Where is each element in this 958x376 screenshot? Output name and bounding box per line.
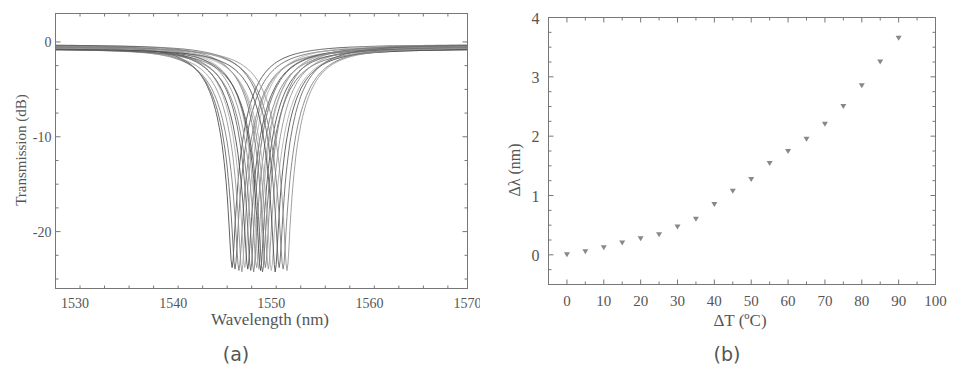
spectrum-line (56, 50, 468, 272)
y-tick-label: 1 (532, 188, 540, 205)
panel-b-caption: (b) (714, 343, 741, 365)
y-tick-label: 0 (532, 247, 540, 264)
x-tick-label: 90 (891, 293, 906, 309)
x-tick-label: 1540 (159, 296, 187, 311)
chart-b-svg: 010203040506070809010001234 ΔT (ºC) Δλ (… (480, 0, 958, 376)
spectrum-line (56, 50, 468, 272)
data-point-triangle-marker (582, 249, 588, 254)
panel-a-caption: (a) (223, 343, 249, 365)
data-points (564, 36, 902, 258)
data-point-triangle-marker (859, 83, 865, 88)
plot-a-frame (56, 14, 468, 289)
panel-a-transmission-spectra: 153015401550156015700-10-20 Wavelength (… (0, 0, 480, 376)
y-tick-label: 2 (532, 128, 540, 145)
x-tick-label: 30 (670, 293, 685, 309)
x-tick-label: 70 (817, 293, 832, 309)
x-axis-label-a: Wavelength (nm) (211, 310, 329, 329)
data-point-triangle-marker (619, 240, 625, 245)
y-axis-label-b: Δλ (nm) (506, 143, 524, 196)
x-tick-label: 100 (924, 293, 947, 309)
x-tick-label: 50 (744, 293, 759, 309)
data-point-triangle-marker (656, 232, 662, 237)
y-axis-label-a: Transmission (dB) (13, 94, 30, 206)
x-tick-label: 1560 (355, 296, 383, 311)
x-tick-label: 1550 (257, 296, 285, 311)
data-point-triangle-marker (564, 252, 570, 257)
y-tick-label: -20 (33, 225, 52, 240)
y-tick-label: 3 (532, 69, 540, 86)
data-point-triangle-marker (601, 245, 607, 250)
data-point-triangle-marker (877, 60, 883, 65)
spectrum-line (56, 48, 468, 270)
data-point-triangle-marker (730, 189, 736, 194)
y-tick-label: 0 (45, 35, 52, 50)
panel-b-wavelength-shift: 010203040506070809010001234 ΔT (ºC) Δλ (… (480, 0, 958, 376)
spectrum-line (56, 50, 468, 272)
data-point-triangle-marker (711, 202, 717, 207)
data-point-triangle-marker (767, 161, 773, 166)
x-tick-label: 0 (563, 293, 571, 309)
data-point-triangle-marker (840, 104, 846, 109)
x-axis-label-b: ΔT (ºC) (713, 311, 766, 330)
data-point-triangle-marker (822, 122, 828, 127)
data-point-triangle-marker (896, 36, 902, 41)
data-point-triangle-marker (785, 149, 791, 154)
x-tick-label: 20 (633, 293, 648, 309)
data-point-triangle-marker (748, 177, 754, 182)
data-point-triangle-marker (693, 217, 699, 222)
spectrum-line (56, 50, 468, 272)
data-point-triangle-marker (675, 224, 681, 229)
x-tick-label: 1570 (454, 296, 481, 311)
x-tick-label: 60 (781, 293, 796, 309)
plot-b-ticks: 010203040506070809010001234 (532, 10, 947, 309)
data-point-triangle-marker (638, 236, 644, 241)
y-tick-label: -10 (33, 130, 52, 145)
data-point-triangle-marker (804, 137, 810, 142)
x-tick-label: 40 (707, 293, 722, 309)
x-tick-label: 10 (596, 293, 611, 309)
plot-b-frame (549, 18, 936, 285)
x-tick-label: 1530 (61, 296, 89, 311)
x-tick-label: 80 (854, 293, 869, 309)
spectra-curves (56, 45, 468, 272)
chart-a-svg: 153015401550156015700-10-20 Wavelength (… (0, 0, 480, 376)
y-tick-label: 4 (532, 10, 540, 27)
